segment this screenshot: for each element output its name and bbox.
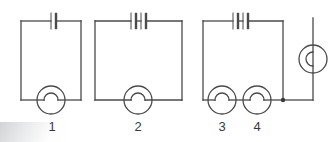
lamp-label-1: 1 [42, 120, 62, 134]
lamp-filament [44, 93, 58, 100]
lamp-filament [215, 93, 229, 100]
lamp-label-4: 4 [247, 120, 267, 134]
lamp-filament [250, 93, 264, 100]
circuit-one [21, 13, 81, 114]
lamp-filament [306, 52, 313, 66]
lamp-filament [131, 93, 145, 100]
junction-dot [281, 98, 285, 102]
battery-cell-symbol [51, 13, 56, 29]
circuit-diagram-figure: 1 2 3 4 [0, 0, 329, 142]
lamp-label-3: 3 [212, 120, 232, 134]
lamp-label-2: 2 [128, 120, 148, 134]
circuit-three [203, 13, 283, 114]
circuit-four-partial [283, 18, 327, 100]
circuit-two [95, 13, 182, 114]
